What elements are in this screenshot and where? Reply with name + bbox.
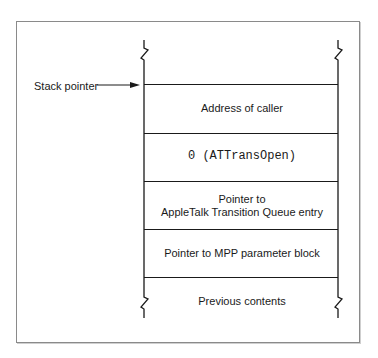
left-column-line — [141, 40, 148, 318]
cell-text: Previous contents — [198, 295, 285, 307]
cell-text: 0 (ATTransOpen) — [188, 149, 296, 163]
cell-text: Pointer to MPP parameter block — [164, 247, 320, 259]
stack-pointer-arrow-icon — [97, 82, 140, 88]
stack-pointer-label: Stack pointer — [34, 80, 98, 93]
cell-text-line-1: Pointer to — [146, 193, 338, 206]
right-column-line — [335, 40, 342, 318]
cell-transition-queue-pointer: Pointer to AppleTalk Transition Queue en… — [146, 193, 338, 219]
cell-mpp-parameter-block-pointer: Pointer to MPP parameter block — [146, 247, 338, 260]
cell-attransopen-selector: 0 (ATTransOpen) — [146, 150, 338, 163]
cell-previous-contents: Previous contents — [146, 295, 338, 308]
cell-text: Address of caller — [201, 102, 283, 114]
cell-address-of-caller: Address of caller — [146, 102, 338, 115]
cell-text-line-2: AppleTalk Transition Queue entry — [146, 206, 338, 219]
